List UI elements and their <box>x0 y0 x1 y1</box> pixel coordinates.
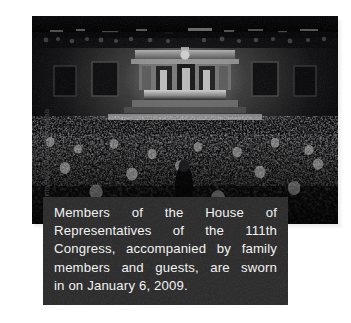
photo-figure: AP Photo/Pablo Martinez Monsivais <box>32 16 338 224</box>
house-chamber-photograph-svg <box>32 16 338 224</box>
caption-word: Congress, <box>54 240 115 258</box>
caption-word: members <box>54 259 110 277</box>
caption-word: Representatives <box>54 222 152 240</box>
caption-word: family <box>242 240 277 258</box>
caption-word: accompanied <box>126 240 206 258</box>
house-chamber-photograph <box>32 16 338 224</box>
caption-line-4: members and guests, are sworn <box>54 259 277 277</box>
caption-word: of <box>132 204 143 222</box>
caption-word: the <box>165 204 184 222</box>
caption-line-3: Congress, accompanied by family <box>54 240 277 258</box>
caption-line-2: Representatives of the 111th <box>54 222 277 240</box>
figure-canvas: AP Photo/Pablo Martinez Monsivais Member… <box>0 0 351 323</box>
caption-line-1: Members of the House of <box>54 204 277 222</box>
caption-word: of <box>173 222 184 240</box>
caption-word: and <box>121 259 143 277</box>
caption-word: House <box>205 204 244 222</box>
caption-line-5: in on January 6, 2009. <box>54 277 277 295</box>
caption-word: 111th <box>245 222 277 240</box>
caption-word: Members <box>54 204 110 222</box>
photo-caption-text: Members of the House of Representatives … <box>54 204 277 295</box>
photo-caption: Members of the House of Representatives … <box>43 197 288 305</box>
caption-word: the <box>205 222 224 240</box>
caption-word: guests, <box>155 259 199 277</box>
caption-word: by <box>217 240 231 258</box>
caption-word: of <box>266 204 277 222</box>
caption-word: are <box>210 259 230 277</box>
photo-shadow-right <box>338 20 343 228</box>
caption-word: sworn <box>241 259 277 277</box>
